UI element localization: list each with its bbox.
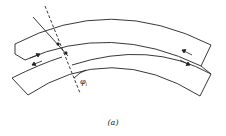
bent-layers-diagram: φi <box>0 0 226 136</box>
upper-layer-left-end <box>15 44 25 60</box>
upper-layer-right-end <box>201 45 211 66</box>
interface-point-lower <box>65 52 67 54</box>
interface-arc <box>25 42 201 66</box>
figure-caption: (a) <box>0 118 226 127</box>
interface-point-upper <box>57 43 59 45</box>
lower-layer-right-end <box>200 66 211 96</box>
lower-layer-bottom-arc <box>28 68 200 96</box>
lower-layer-top-arc <box>12 57 62 78</box>
upper-layer-top-arc <box>15 19 211 45</box>
angle-label: φi <box>80 77 88 87</box>
lower-layer-left-end <box>12 78 28 95</box>
shear-arrows <box>30 43 192 66</box>
